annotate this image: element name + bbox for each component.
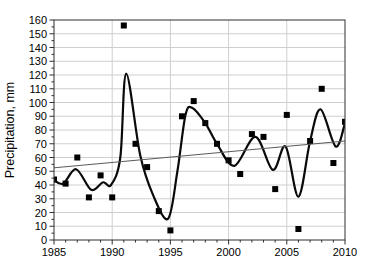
data-point-marker [295,226,301,232]
y-tick-label: 160 [29,14,47,26]
data-point-marker [121,23,127,29]
y-tick-label: 90 [35,110,47,122]
data-point-marker [74,155,80,161]
y-tick-label: 120 [29,69,47,81]
y-tick-label: 110 [29,83,47,95]
data-layer [51,23,348,234]
y-tick-label: 60 [35,152,47,164]
data-point-marker [284,112,290,118]
data-point-marker [98,172,104,178]
y-tick-label: 50 [35,165,47,177]
y-tick-label: 40 [35,179,47,191]
data-point-marker [330,160,336,166]
y-tick-label: 130 [29,55,47,67]
data-point-marker [109,194,115,200]
y-tick-label: 30 [35,193,47,205]
y-tick-label: 100 [29,97,47,109]
precipitation-chart-figure: 0102030405060708090100110120130140150160… [0,0,367,268]
data-point-marker [167,227,173,233]
data-point-marker [144,164,150,170]
axis-tick-labels: 0102030405060708090100110120130140150160… [29,14,358,258]
data-point-marker [319,86,325,92]
trend-line [54,141,345,168]
data-point-marker [237,171,243,177]
x-tick-label: 1990 [100,246,124,258]
x-tick-label: 2005 [275,246,299,258]
y-axis-title: Precipitation, mm [3,82,17,179]
y-tick-label: 20 [35,207,47,219]
x-tick-label: 1995 [158,246,182,258]
y-tick-label: 70 [35,138,47,150]
y-tick-label: 150 [29,28,47,40]
data-point-marker [86,194,92,200]
x-tick-label: 2000 [216,246,240,258]
y-tick-label: 10 [35,220,47,232]
data-point-marker [272,186,278,192]
data-point-marker [261,134,267,140]
x-tick-label: 1985 [42,246,66,258]
smoothed-curve [54,74,345,220]
precipitation-chart: 0102030405060708090100110120130140150160… [0,0,367,268]
y-tick-label: 80 [35,124,47,136]
gridlines [54,20,345,240]
y-tick-label: 0 [41,234,47,246]
y-tick-label: 140 [29,42,47,54]
data-point-marker [191,98,197,104]
axis-ticks [50,20,346,245]
x-tick-label: 2010 [333,246,357,258]
